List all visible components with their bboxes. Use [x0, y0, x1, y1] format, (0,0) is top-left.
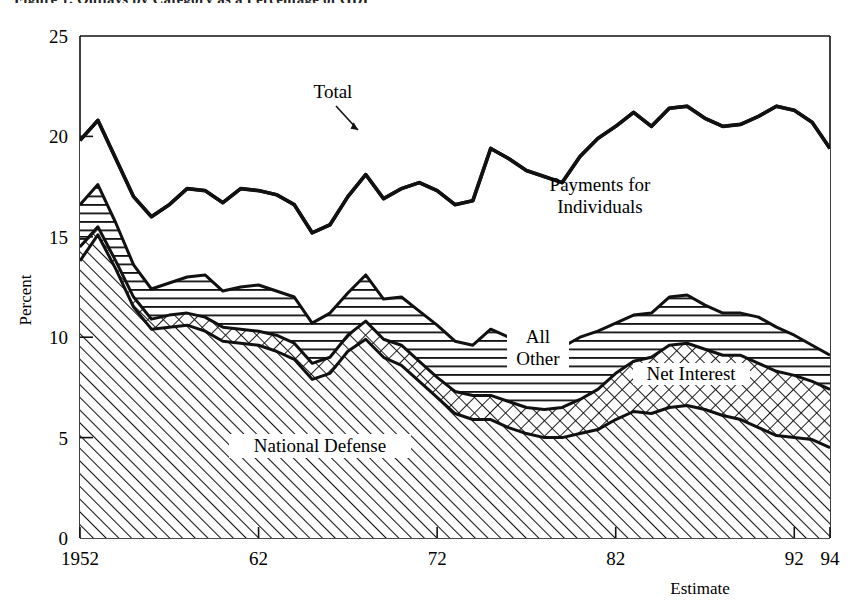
y-tick-label: 25	[49, 26, 68, 47]
payments-label: Payments for Individuals	[550, 174, 651, 217]
x-tick-label: 94	[821, 548, 841, 569]
x-tick-label: 92	[785, 548, 804, 569]
total-callout: Total	[314, 81, 358, 130]
x-tick-label: 62	[249, 548, 268, 569]
national-defense-label-text: National Defense	[254, 435, 386, 456]
all-other-label-line1: All	[526, 326, 550, 347]
net-interest-label: Net Interest	[633, 363, 750, 385]
y-tick-label: 20	[49, 126, 68, 147]
area-chart-svg: 0510152025 19526272829294 Percent Estima…	[0, 0, 850, 610]
y-tick-label: 0	[59, 528, 69, 549]
total-label: Total	[314, 81, 353, 102]
net-interest-label-text: Net Interest	[646, 363, 736, 384]
stacked-areas	[80, 106, 830, 538]
x-tick-label: 82	[606, 548, 625, 569]
y-axis-title: Percent	[16, 274, 35, 325]
payments-label-line1: Payments for	[550, 174, 651, 195]
y-tick-label: 5	[59, 428, 69, 449]
x-tick-labels: 19526272829294	[61, 548, 840, 569]
all-other-label-line2: Other	[516, 348, 560, 369]
y-tick-label: 10	[49, 327, 68, 348]
payments-label-line2: Individuals	[557, 196, 643, 217]
y-tick-labels: 0510152025	[49, 26, 68, 549]
all-other-label: All Other	[507, 324, 569, 372]
figure-root: Figure 1. Outlays by Category as a Perce…	[0, 0, 850, 610]
x-tick-label: 72	[428, 548, 447, 569]
x-axis-title: Estimate	[670, 579, 729, 598]
x-tick-label: 1952	[61, 548, 99, 569]
y-tick-label: 15	[49, 227, 68, 248]
national-defense-label: National Defense	[229, 434, 411, 458]
